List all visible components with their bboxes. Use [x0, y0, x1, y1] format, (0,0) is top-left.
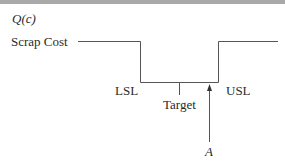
usl-label: USL	[226, 84, 251, 98]
target-label: Target	[163, 98, 196, 112]
arrowhead-icon	[207, 84, 212, 91]
step-loss-curve	[78, 42, 278, 83]
point-a-label: A	[205, 145, 213, 159]
loss-function-diagram	[0, 0, 285, 161]
y-axis-label: Q(c)	[12, 12, 36, 26]
scrap-cost-label: Scrap Cost	[11, 35, 68, 49]
lsl-label: LSL	[115, 84, 138, 98]
